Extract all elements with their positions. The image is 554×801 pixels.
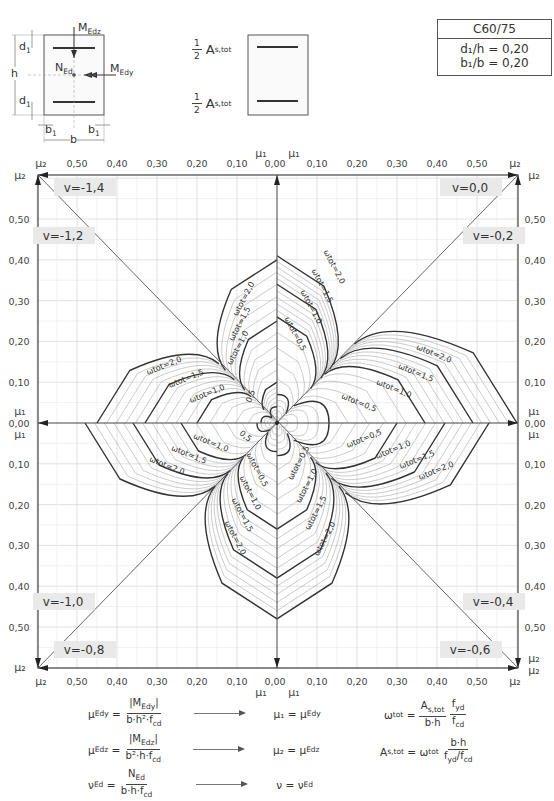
- svg-text:0,20: 0,20: [346, 676, 367, 687]
- svg-text:μ₁: μ₁: [14, 405, 25, 418]
- svg-text:0,10: 0,10: [524, 377, 545, 388]
- svg-text:0,40: 0,40: [426, 676, 447, 687]
- svg-text:0,5: 0,5: [238, 429, 254, 444]
- svg-text:μ₂: μ₂: [528, 664, 539, 677]
- svg-text:v=-0,4: v=-0,4: [473, 595, 514, 609]
- svg-text:0,30: 0,30: [146, 676, 167, 687]
- svg-text:v=-0,8: v=-0,8: [64, 643, 105, 657]
- svg-text:0,20: 0,20: [186, 158, 207, 169]
- svg-text:0,40: 0,40: [106, 676, 127, 687]
- svg-text:0,00: 0,00: [264, 676, 285, 687]
- svg-text:0,50: 0,50: [66, 676, 87, 687]
- svg-text:0,10: 0,10: [226, 158, 247, 169]
- concrete-class: C60/75: [438, 20, 551, 39]
- svg-text:0,10: 0,10: [524, 459, 545, 470]
- svg-text:v=-0,2: v=-0,2: [473, 229, 514, 243]
- svg-text:μ₂: μ₂: [14, 661, 25, 674]
- svg-text:0,30: 0,30: [146, 158, 167, 169]
- svg-text:0,30: 0,30: [386, 676, 407, 687]
- svg-text:μ₁: μ₁: [288, 147, 299, 160]
- label-b1-left: b1: [45, 123, 57, 138]
- svg-text:0,40: 0,40: [8, 581, 29, 592]
- svg-text:ωtot=1,0: ωtot=1,0: [188, 383, 226, 405]
- svg-text:0,50: 0,50: [466, 676, 487, 687]
- label-half-As-top: 12 As,tot: [192, 37, 231, 62]
- svg-text:0,30: 0,30: [8, 540, 29, 551]
- svg-text:0,10: 0,10: [306, 158, 327, 169]
- svg-text:ωtot=1,5: ωtot=1,5: [397, 362, 435, 384]
- arrow-icon: [196, 784, 246, 785]
- arrow-icon: [194, 713, 244, 714]
- svg-text:0,40: 0,40: [8, 255, 29, 266]
- svg-text:0,50: 0,50: [66, 158, 87, 169]
- formula-nu-ed: νEd = NEdb·h·fcd ν = νEd: [88, 768, 313, 801]
- svg-text:v=-1,4: v=-1,4: [64, 181, 105, 195]
- svg-text:0,20: 0,20: [186, 676, 207, 687]
- svg-text:v=-1,2: v=-1,2: [43, 229, 84, 243]
- chart-frame: [35, 172, 521, 671]
- svg-text:μ₁: μ₁: [528, 405, 539, 418]
- svg-text:0,20: 0,20: [524, 336, 545, 347]
- svg-text:0,20: 0,20: [8, 500, 29, 511]
- svg-text:ωtot=2,0: ωtot=2,0: [417, 460, 455, 482]
- label-NEd: NEd: [55, 61, 73, 76]
- arrow-icon: [193, 749, 243, 750]
- svg-text:μ₁: μ₁: [14, 428, 25, 441]
- svg-text:ωtot=1,5: ωtot=1,5: [303, 494, 328, 531]
- reinforcement-sketch: [248, 35, 308, 115]
- svg-text:0,40: 0,40: [524, 255, 545, 266]
- svg-text:0,30: 0,30: [524, 540, 545, 551]
- svg-text:v=-0,6: v=-0,6: [450, 643, 491, 657]
- svg-text:μ₂: μ₂: [509, 157, 520, 170]
- svg-text:0,00: 0,00: [264, 158, 285, 169]
- svg-text:μ₂: μ₂: [528, 169, 539, 182]
- svg-text:v=-1,0: v=-1,0: [43, 595, 84, 609]
- svg-text:0,50: 0,50: [8, 622, 29, 633]
- formula-omega-tot: ωtot = As,totb·h fydfcd: [384, 698, 466, 731]
- svg-text:ωtot=2,0: ωtot=2,0: [148, 455, 186, 477]
- formula-mu-edy: μEdy = |MEdy|b·h²·fcd μ₁ = μEdy: [88, 697, 321, 730]
- ratio-d1-h: d₁/h = 0,20: [438, 42, 551, 56]
- svg-text:0,10: 0,10: [306, 676, 327, 687]
- svg-text:0,10: 0,10: [8, 459, 29, 470]
- svg-text:0,20: 0,20: [524, 500, 545, 511]
- label-d1-top: d1: [19, 40, 31, 55]
- svg-text:μ₂: μ₂: [35, 675, 46, 688]
- label-MEdz: MEdz: [78, 21, 101, 36]
- label-b1-right: b1: [88, 123, 100, 138]
- svg-text:0,50: 0,50: [524, 622, 545, 633]
- svg-text:0,40: 0,40: [426, 158, 447, 169]
- svg-text:ωtot=1,0: ωtot=1,0: [374, 439, 412, 461]
- svg-text:0,20: 0,20: [346, 158, 367, 169]
- svg-text:v=0,0: v=0,0: [452, 181, 488, 195]
- svg-text:0,50: 0,50: [524, 214, 545, 225]
- svg-text:0,10: 0,10: [8, 377, 29, 388]
- formula-as-tot: As,tot = ωtot b·hfyd/fcd: [380, 737, 475, 766]
- svg-text:ωtot=2,0: ωtot=2,0: [321, 248, 346, 285]
- svg-text:μ₂: μ₂: [509, 675, 520, 688]
- label-b: b: [70, 133, 77, 146]
- svg-text:μ₁: μ₁: [528, 428, 539, 441]
- svg-text:0,10: 0,10: [226, 676, 247, 687]
- svg-text:ωtot=1,0: ωtot=1,0: [375, 378, 413, 400]
- svg-text:0,20: 0,20: [8, 336, 29, 347]
- omega-curves: [85, 256, 517, 619]
- svg-text:μ₁: μ₁: [255, 147, 266, 160]
- svg-text:0,40: 0,40: [524, 581, 545, 592]
- svg-text:μ₂: μ₂: [14, 169, 25, 182]
- svg-text:0,30: 0,30: [386, 158, 407, 169]
- label-d1-bottom: d1: [19, 94, 31, 109]
- svg-text:0,50: 0,50: [8, 214, 29, 225]
- svg-text:0,30: 0,30: [8, 296, 29, 307]
- svg-text:ωtot=1,5: ωtot=1,5: [170, 444, 208, 466]
- svg-text:0,5: 0,5: [244, 389, 257, 404]
- label-MEdy: MEdy: [110, 62, 133, 77]
- parameter-table: C60/75 d₁/h = 0,20 b₁/b = 0,20: [437, 19, 552, 76]
- label-h: h: [11, 67, 18, 80]
- svg-text:0,50: 0,50: [466, 158, 487, 169]
- svg-text:0,40: 0,40: [106, 158, 127, 169]
- svg-text:0,30: 0,30: [524, 296, 545, 307]
- formula-mu-edz: μEdz = |MEdz|b²·h·fcd μ₂ = μEdz: [88, 733, 320, 766]
- ratio-b1-b: b₁/b = 0,20: [438, 56, 551, 70]
